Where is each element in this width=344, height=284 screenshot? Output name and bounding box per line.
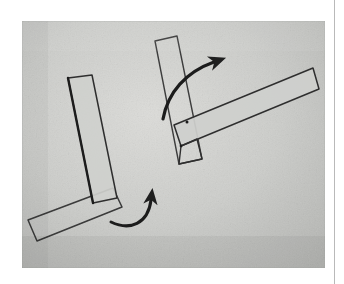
drawing-surface [22, 21, 325, 268]
junction-dot-lower [180, 145, 183, 148]
photograph [22, 21, 325, 268]
page-canvas: Photograph of a hand-drawn diagram on te… [0, 0, 344, 284]
page-divider-rule [334, 0, 335, 284]
junction-dot-upper [186, 121, 189, 124]
paper-background [22, 21, 325, 268]
